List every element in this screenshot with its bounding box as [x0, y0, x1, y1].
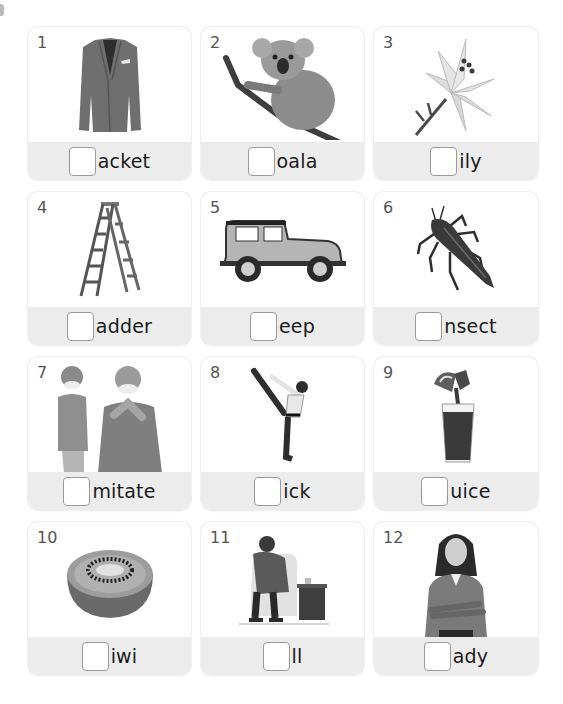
card-number: 8 [210, 363, 220, 382]
card-number: 9 [383, 363, 393, 382]
lily-picture [374, 27, 538, 142]
card-number: 5 [210, 198, 220, 217]
card-number: 6 [383, 198, 393, 217]
word-card-7: 7 mitate [28, 357, 191, 510]
card-number: 1 [37, 33, 47, 52]
imitate-picture [28, 357, 191, 472]
koala-picture [201, 27, 364, 142]
word-ending: uice [450, 480, 490, 502]
word-ending: ily [459, 150, 481, 172]
answer-band: iwi [28, 637, 191, 675]
kick-picture [201, 357, 364, 472]
card-number: 2 [210, 33, 220, 52]
koala-icon [208, 30, 358, 140]
word-card-12: 12 ady [374, 522, 538, 675]
word-ending: nsect [444, 315, 497, 337]
answer-band: ady [374, 637, 538, 675]
answer-band: adder [28, 307, 191, 345]
answer-band: acket [28, 142, 191, 180]
juice-icon [426, 362, 486, 467]
lady-icon [421, 530, 491, 638]
card-number: 3 [383, 33, 393, 52]
card-number: 4 [37, 198, 47, 217]
missing-letter-box[interactable] [69, 147, 96, 176]
kiwi-icon [65, 540, 155, 620]
lily-icon [406, 31, 506, 139]
word-ending: adder [96, 315, 152, 337]
word-card-3: 3 ily [374, 27, 538, 180]
word-ending: ick [283, 480, 310, 502]
jeep-icon [218, 215, 348, 285]
ill-icon [233, 532, 333, 628]
missing-letter-box[interactable] [67, 312, 94, 341]
word-card-4: 4 adder [28, 192, 191, 345]
word-card-6: 6 nsect [374, 192, 538, 345]
word-card-10: 10 iwi [28, 522, 191, 675]
juice-picture [374, 357, 538, 472]
word-card-11: 11 ll [201, 522, 364, 675]
word-ending: ll [292, 645, 303, 667]
answer-band: mitate [28, 472, 191, 510]
answer-band: oala [201, 142, 364, 180]
missing-letter-box[interactable] [82, 642, 109, 671]
word-ending: oala [277, 150, 318, 172]
insect-icon [414, 202, 499, 297]
word-card-2: 2 oala [201, 27, 364, 180]
word-card-1: 1 acket [28, 27, 191, 180]
word-ending: mitate [92, 480, 155, 502]
answer-band: ll [201, 637, 364, 675]
imitate-icon [50, 363, 170, 473]
card-number: 12 [383, 528, 403, 547]
worksheet-grid: 1 acket 2 oala [28, 27, 538, 675]
missing-letter-box[interactable] [250, 312, 277, 341]
page-corner-mark [0, 4, 4, 16]
answer-band: uice [374, 472, 538, 510]
insect-picture [374, 192, 538, 307]
missing-letter-box[interactable] [430, 147, 457, 176]
card-number: 10 [37, 528, 57, 547]
word-card-5: 5 eep [201, 192, 364, 345]
ladder-icon [75, 200, 145, 300]
answer-band: nsect [374, 307, 538, 345]
missing-letter-box[interactable] [424, 642, 451, 671]
jacket-icon [75, 35, 145, 135]
missing-letter-box[interactable] [63, 477, 90, 506]
answer-band: ick [201, 472, 364, 510]
missing-letter-box[interactable] [254, 477, 281, 506]
ladder-picture [28, 192, 191, 307]
kick-icon [248, 365, 318, 465]
answer-band: ily [374, 142, 538, 180]
word-ending: eep [279, 315, 315, 337]
missing-letter-box[interactable] [421, 477, 448, 506]
card-number: 7 [37, 363, 47, 382]
missing-letter-box[interactable] [248, 147, 275, 176]
word-ending: iwi [111, 645, 138, 667]
card-number: 11 [210, 528, 230, 547]
answer-band: eep [201, 307, 364, 345]
jeep-picture [201, 192, 364, 307]
missing-letter-box[interactable] [415, 312, 442, 341]
word-card-9: 9 uice [374, 357, 538, 510]
jacket-picture [28, 27, 191, 142]
missing-letter-box[interactable] [263, 642, 290, 671]
word-card-8: 8 ick [201, 357, 364, 510]
word-ending: ady [453, 645, 489, 667]
word-ending: acket [98, 150, 151, 172]
